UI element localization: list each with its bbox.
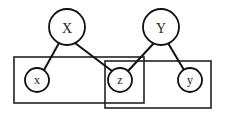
- node-z: z: [108, 68, 132, 92]
- node-X-label: X: [62, 21, 72, 36]
- edge-Y-y: [168, 43, 184, 70]
- node-y-label: y: [187, 73, 193, 87]
- node-y: y: [178, 68, 202, 92]
- node-x: x: [25, 68, 49, 92]
- node-x-label: x: [34, 73, 40, 87]
- node-Y-label: Y: [156, 21, 166, 36]
- graphical-model-diagram: X Y x z y: [0, 0, 230, 114]
- node-z-label: z: [117, 73, 122, 87]
- node-Y: Y: [143, 9, 179, 45]
- node-X: X: [49, 9, 85, 45]
